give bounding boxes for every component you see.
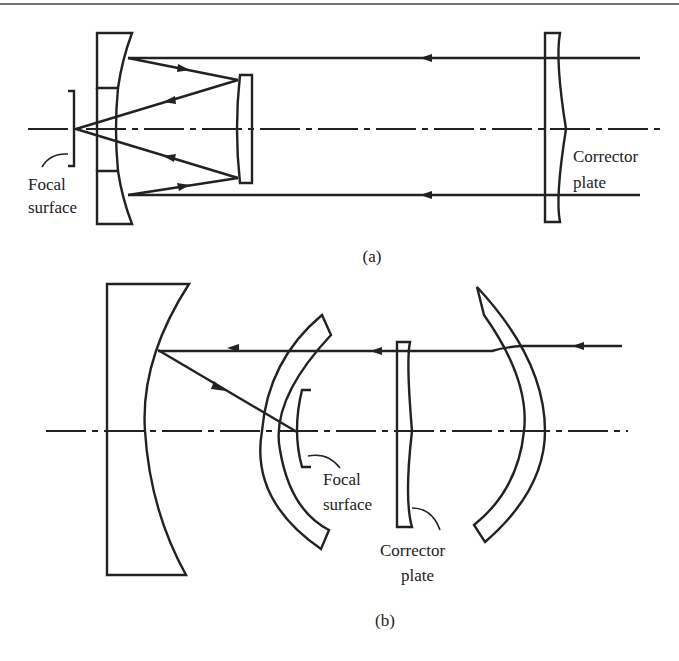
corrector-leader-b bbox=[412, 508, 440, 530]
arrow-incoming-b2 bbox=[370, 347, 382, 355]
arrow-incoming-bottom bbox=[420, 191, 432, 199]
focal-surface-leader-b bbox=[308, 455, 340, 468]
ray-incoming-b bbox=[158, 346, 622, 351]
corrector-plate-a bbox=[545, 33, 566, 222]
meniscus-shell-right bbox=[474, 287, 545, 542]
arrow-primary-bottom bbox=[177, 183, 190, 191]
ray-to-focus-b bbox=[158, 350, 297, 432]
focal-surface-label-b-1: Focal bbox=[323, 470, 361, 489]
corrector-plate-b bbox=[397, 342, 412, 527]
primary-mirror-upper bbox=[97, 33, 132, 88]
panel-b: Focal surface Corrector plate (b) bbox=[46, 284, 628, 630]
corrector-label-a-2: plate bbox=[573, 173, 606, 192]
optical-diagram: Focal surface Corrector plate (a) Focal bbox=[0, 0, 679, 661]
arrow-incoming-top bbox=[420, 54, 432, 62]
focal-surface-label-a-1: Focal bbox=[28, 175, 66, 194]
corrector-label-b-1: Corrector bbox=[380, 541, 445, 560]
caption-a: (a) bbox=[363, 247, 382, 266]
arrow-incoming-b1 bbox=[572, 342, 584, 350]
focal-surface-label-b-2: surface bbox=[323, 495, 372, 514]
primary-mirror-lower bbox=[97, 171, 132, 224]
focal-surface-leader-a bbox=[42, 154, 68, 167]
corrector-label-a-1: Corrector bbox=[573, 147, 638, 166]
panel-a: Focal surface Corrector plate (a) bbox=[28, 33, 662, 266]
spherical-mirror bbox=[107, 284, 189, 575]
caption-b: (b) bbox=[375, 611, 395, 630]
focal-surface-bracket-a bbox=[68, 91, 74, 166]
focal-surface-label-a-2: surface bbox=[28, 198, 77, 217]
corrector-label-b-2: plate bbox=[401, 566, 434, 585]
